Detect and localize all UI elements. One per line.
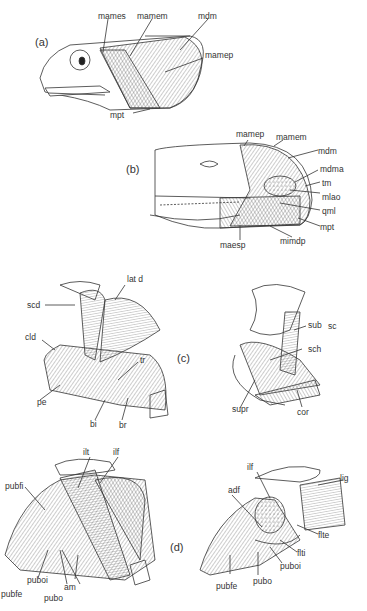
label-pubfe: pubfe bbox=[216, 582, 237, 591]
anatomy-drawings bbox=[0, 0, 367, 611]
label-cld: cld bbox=[25, 333, 36, 342]
label-puboi: puboi bbox=[280, 562, 301, 571]
panel-label-b: (b) bbox=[126, 163, 139, 175]
label-maesp: maesp bbox=[220, 241, 246, 250]
label-ilf: ilf bbox=[247, 463, 253, 472]
label-mamep: mamep bbox=[205, 51, 233, 60]
label-puboi: puboi bbox=[27, 576, 48, 585]
label-mamem: mamem bbox=[137, 12, 168, 21]
label-mpt: mpt bbox=[110, 111, 124, 120]
panel-a-drawing bbox=[40, 36, 203, 110]
label-bi: bi bbox=[90, 420, 97, 429]
panel-label-d: (d) bbox=[170, 541, 183, 553]
label-supr: supr bbox=[232, 405, 249, 414]
label-scd: scd bbox=[27, 301, 40, 310]
label-pubfe: pubfe bbox=[1, 590, 22, 599]
label-cor: cor bbox=[297, 408, 309, 417]
label-flti: flti bbox=[297, 549, 306, 558]
label-mamem: mamem bbox=[276, 133, 307, 142]
label-mamep: mamep bbox=[236, 130, 264, 139]
panel-c-left-drawing bbox=[44, 282, 168, 419]
label-pubfi: pubfi bbox=[5, 482, 23, 491]
panel-label-a: (a) bbox=[35, 36, 48, 48]
label-pubo: pubo bbox=[253, 577, 272, 586]
label-pe: pe bbox=[37, 398, 46, 407]
label-sub: sub bbox=[308, 321, 322, 330]
label-adf: adf bbox=[228, 486, 240, 495]
label-ilf: ilf bbox=[113, 448, 119, 457]
label-mames: mames bbox=[98, 12, 126, 21]
label-lig: lig bbox=[340, 474, 349, 483]
panel-label-c: (c) bbox=[177, 352, 190, 364]
label-tm: tm bbox=[322, 179, 331, 188]
label-flte: flte bbox=[318, 531, 329, 540]
label-sch: sch bbox=[308, 345, 321, 354]
label-tr: tr bbox=[140, 356, 145, 365]
panel-d-left-drawing bbox=[5, 459, 155, 585]
label-ilt: ilt bbox=[83, 448, 89, 457]
label-mdm: mdm bbox=[198, 12, 217, 21]
label-pubo: pubo bbox=[44, 594, 63, 603]
panel-b-drawing bbox=[150, 143, 312, 228]
label-sc: sc bbox=[328, 322, 337, 331]
label-mdm: mdm bbox=[318, 147, 337, 156]
panel-d-right-drawing bbox=[200, 466, 345, 575]
label-mimdp: mimdp bbox=[280, 237, 306, 246]
panel-c-right-drawing bbox=[233, 284, 320, 405]
label-mdma: mdma bbox=[320, 165, 344, 174]
label-qml: qml bbox=[322, 207, 336, 216]
label-am: am bbox=[64, 583, 76, 592]
label-mlao: mlao bbox=[322, 193, 340, 202]
label-mpt: mpt bbox=[320, 223, 334, 232]
label-lat-d: lat d bbox=[127, 275, 143, 284]
label-br: br bbox=[119, 421, 127, 430]
